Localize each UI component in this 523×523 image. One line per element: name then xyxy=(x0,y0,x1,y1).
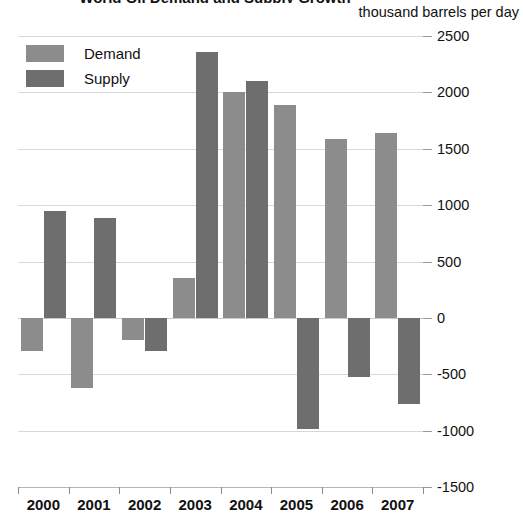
y-axis-tick-label: 2000 xyxy=(437,84,469,100)
y-axis-tick-label: 2500 xyxy=(437,28,469,44)
x-axis-tick xyxy=(221,487,222,494)
bar-supply-2003 xyxy=(196,52,218,318)
bar-demand-2003 xyxy=(173,278,195,317)
bar-supply-2000 xyxy=(44,211,66,318)
gridline xyxy=(18,431,423,432)
y-axis-tick xyxy=(423,487,432,488)
bar-supply-2001 xyxy=(94,218,116,318)
x-axis-label-2001: 2001 xyxy=(77,496,110,513)
gridline xyxy=(18,149,423,150)
gridline xyxy=(18,262,423,263)
gridline xyxy=(18,205,423,206)
y-axis-tick xyxy=(423,318,432,319)
chart-title: World Oil Demand and Supply Growth xyxy=(0,0,430,3)
x-axis-tick xyxy=(119,487,120,494)
y-axis-tick xyxy=(423,36,432,37)
y-axis-tick xyxy=(423,262,432,263)
bar-demand-2001 xyxy=(71,318,93,388)
y-axis-tick-label: 0 xyxy=(437,310,445,326)
legend-swatch-demand-icon xyxy=(26,45,64,62)
chart-container: World Oil Demand and Supply Growth thous… xyxy=(0,0,523,523)
bar-demand-2002 xyxy=(122,318,144,341)
legend-swatch-supply-icon xyxy=(26,70,64,87)
y-axis-tick xyxy=(423,374,432,375)
bar-demand-2006 xyxy=(325,139,347,318)
legend-item-demand: Demand xyxy=(26,43,141,64)
bar-supply-2004 xyxy=(246,81,268,318)
x-axis-label-2005: 2005 xyxy=(280,496,313,513)
y-axis-tick-label: -1500 xyxy=(437,479,474,495)
x-axis-tick xyxy=(170,487,171,494)
y-axis-tick-label: -1000 xyxy=(437,423,474,439)
bar-demand-2007 xyxy=(375,133,397,318)
axis-unit-caption: thousand barrels per day xyxy=(359,4,519,20)
gridline xyxy=(18,36,423,37)
bar-demand-2005 xyxy=(274,105,296,318)
y-axis-tick-label: 1500 xyxy=(437,141,469,157)
x-axis-tick xyxy=(372,487,373,494)
bar-supply-2006 xyxy=(348,318,370,377)
x-axis-label-2002: 2002 xyxy=(128,496,161,513)
y-axis-tick xyxy=(423,92,432,93)
y-axis-tick-label: -500 xyxy=(437,366,466,382)
legend-label-demand: Demand xyxy=(84,45,141,62)
chart-legend: Demand Supply xyxy=(26,43,141,93)
x-axis-tick xyxy=(271,487,272,494)
x-axis-label-2000: 2000 xyxy=(27,496,60,513)
y-axis-tick xyxy=(423,431,432,432)
bar-demand-2000 xyxy=(21,318,43,351)
y-axis-tick-label: 500 xyxy=(437,254,461,270)
bar-supply-2002 xyxy=(145,318,167,351)
x-axis-label-2006: 2006 xyxy=(330,496,363,513)
bar-supply-2005 xyxy=(297,318,319,430)
legend-label-supply: Supply xyxy=(84,70,130,87)
x-axis-label-2003: 2003 xyxy=(179,496,212,513)
bar-demand-2004 xyxy=(223,92,245,318)
y-axis-tick xyxy=(423,205,432,206)
legend-item-supply: Supply xyxy=(26,68,141,89)
x-axis-label-2004: 2004 xyxy=(229,496,262,513)
y-axis-tick-label: 1000 xyxy=(437,197,469,213)
bar-supply-2007 xyxy=(398,318,420,404)
x-axis-tick xyxy=(18,487,19,494)
x-axis-tick xyxy=(322,487,323,494)
y-axis-tick xyxy=(423,149,432,150)
x-axis-tick xyxy=(69,487,70,494)
x-axis-label-2007: 2007 xyxy=(381,496,414,513)
x-axis-tick xyxy=(423,487,424,494)
